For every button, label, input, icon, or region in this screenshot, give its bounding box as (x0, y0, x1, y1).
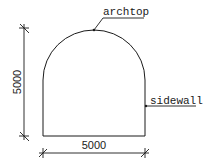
sidewall-label: sidewall (150, 95, 203, 107)
height-dimension: 5000 (11, 24, 29, 141)
width-dimension: 5000 (39, 139, 149, 158)
tunnel-outline (43, 30, 145, 136)
width-dimension-label: 5000 (82, 139, 106, 151)
archtop-label: archtop (103, 6, 149, 18)
archtop-leader (94, 18, 144, 30)
height-dimension-label: 5000 (11, 70, 23, 94)
tunnel-section-diagram: archtop sidewall 5000 5000 (0, 0, 209, 168)
